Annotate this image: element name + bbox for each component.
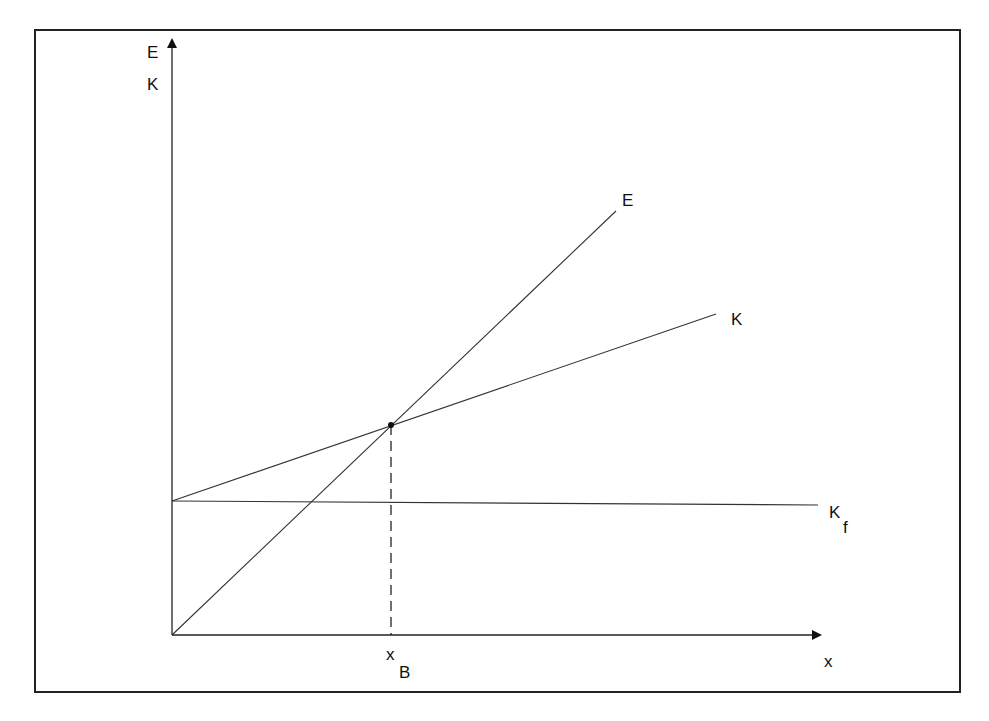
y-axis-label-e: E [147,43,158,62]
line-kf-label: K [829,503,841,522]
line-kf-label-sub: f [843,518,848,537]
break-even-diagram: E K E K K f x B x [0,0,989,721]
line-e [172,211,616,635]
frame-border [35,30,960,692]
break-even-point [388,422,394,428]
line-kf [172,501,818,505]
x-b-label: x [386,645,395,664]
y-axis-label-k: K [147,75,159,94]
x-b-label-sub: B [399,663,410,682]
line-e-label: E [622,191,633,210]
line-k-label: K [731,310,743,329]
x-axis-label: x [824,652,833,671]
line-k [172,314,716,501]
